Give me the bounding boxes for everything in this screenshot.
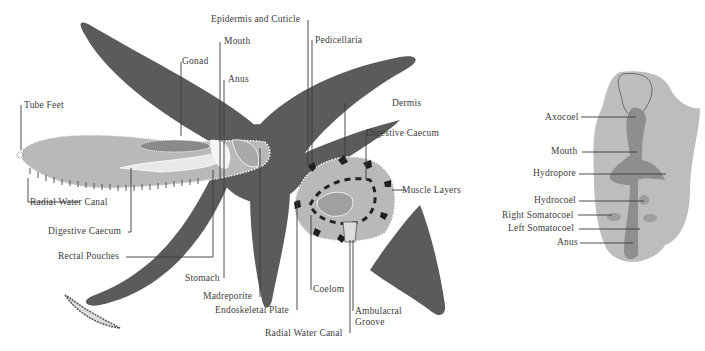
label-radial-water-canal-left: Radial Water Canal: [30, 197, 108, 208]
label-larva-anus: Anus: [557, 237, 578, 248]
label-hydropore: Hydropore: [533, 168, 576, 179]
label-larva-mouth: Mouth: [551, 146, 577, 157]
label-radial-water-canal-bottom: Radial Water Canal: [265, 328, 343, 339]
label-muscle-layers: Muscle Layers: [402, 185, 461, 196]
label-anus: Anus: [228, 74, 249, 85]
label-gonad: Gonad: [182, 56, 208, 67]
label-axocoel: Axocoel: [545, 112, 579, 123]
label-endoskeletal-plate: Endoskeletal Plate: [215, 305, 289, 316]
label-pedicellaria: Pedicellaria: [315, 35, 362, 46]
starfish-anatomy-diagram: [0, 0, 705, 351]
label-stomach: Stomach: [185, 273, 220, 284]
label-groove: Groove: [355, 317, 385, 328]
label-tube-feet: Tube Feet: [24, 100, 64, 111]
label-epidermis-and-cuticle: Epidermis and Cuticle: [211, 14, 300, 25]
label-right-somatocoel: Right Somatocoel: [502, 210, 574, 221]
label-coelom: Coelom: [313, 284, 344, 295]
label-rectal-pouches: Rectal Pouches: [58, 251, 119, 262]
label-madreporite: Madreporite: [203, 291, 252, 302]
label-left-somatocoel: Left Somatocoel: [508, 223, 574, 234]
label-hydrocoel: Hydrocoel: [534, 195, 576, 206]
label-digestive-caecum-left: Digestive Caecum: [48, 226, 121, 237]
label-dermis: Dermis: [392, 98, 421, 109]
label-mouth: Mouth: [224, 36, 250, 47]
larva-diagram: [593, 71, 700, 262]
label-digestive-caecum-right: Digestive Caecum: [366, 128, 439, 139]
label-ambulacral: Ambulacral: [355, 306, 402, 317]
